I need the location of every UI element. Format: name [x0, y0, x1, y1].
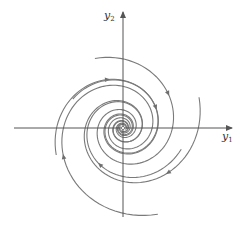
direction-arrow-icon: [166, 169, 171, 174]
trajectory-group: [55, 57, 200, 215]
trajectory-3: [62, 85, 158, 215]
y2-label-subscript: 2: [110, 15, 114, 23]
direction-arrow-icon: [62, 154, 66, 159]
y1-label-subscript: 1: [228, 136, 232, 144]
origin-equilibrium-point: [121, 126, 124, 129]
phase-portrait-diagram: y2 y1: [0, 0, 244, 227]
y2-axis-label: y2: [104, 10, 115, 23]
y1-axis-label: y1: [222, 131, 233, 144]
phase-portrait-svg: [0, 0, 244, 227]
trajectory-5: [73, 80, 159, 154]
trajectory-2: [84, 97, 200, 182]
